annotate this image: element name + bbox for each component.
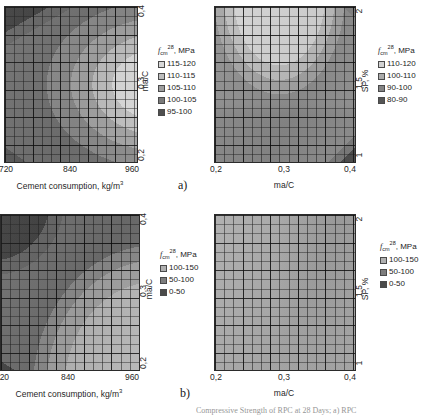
corner-band-dark-bottomleft — [5, 7, 137, 162]
legend-label: 0-50 — [169, 287, 185, 298]
x-axis-label: ma/C — [214, 388, 354, 398]
x-tick: 840 — [63, 163, 77, 175]
legend-item[interactable]: 100-150 — [380, 255, 418, 266]
legend-label: 100-110 — [387, 71, 416, 82]
legend-title: fcm28, MPa — [160, 248, 198, 260]
legend-label: 50-100 — [389, 267, 414, 278]
legend-item[interactable]: 110-115 — [158, 71, 196, 82]
legend-item[interactable]: 115-120 — [158, 59, 196, 70]
legend-label: 50-100 — [169, 275, 194, 286]
legend-item[interactable]: 0-50 — [380, 279, 418, 290]
x-tick: 0,3 — [278, 371, 290, 383]
plot-area-b-left — [0, 214, 140, 371]
chart-panel-a-left: 720 840 960 Cement consumption, kg/m3 0,… — [0, 0, 212, 208]
legend-swatch — [158, 97, 165, 104]
x-tick: 960 — [125, 371, 139, 383]
y-tick: 2 — [354, 208, 364, 230]
corner-band-dark-bottomleft — [1, 215, 139, 370]
shading-gradient-right — [215, 215, 355, 370]
legend-b-right: fcm28, MPa 100-150 50-100 0-50 — [380, 240, 418, 291]
legend-item[interactable]: 100-150 — [160, 263, 198, 274]
legend-b-left: fcm28, MPa 100-150 50-100 0-50 — [160, 248, 198, 299]
legend-label: 95-100 — [167, 107, 192, 118]
legend-swatch — [378, 73, 385, 80]
y-tick: 0,4 — [136, 0, 146, 22]
legend-swatch — [160, 289, 167, 296]
legend-item[interactable]: 50-100 — [160, 275, 198, 286]
legend-item[interactable]: 80-90 — [378, 95, 416, 106]
legend-item[interactable]: 110-120 — [378, 59, 416, 70]
legend-item[interactable]: 105-110 — [158, 83, 196, 94]
legend-item[interactable]: 50-100 — [380, 267, 418, 278]
legend-item[interactable]: 0-50 — [160, 287, 198, 298]
x-axis-ticks-b-left: 720 840 960 — [0, 371, 138, 383]
y-tick: 0,2 — [138, 352, 148, 374]
legend-label: 115-120 — [167, 59, 196, 70]
x-tick: 0,3 — [278, 163, 290, 175]
x-axis-ticks-b-right: 0,2 0,3 0,4 — [214, 371, 354, 383]
x-axis-label: ma/C — [214, 180, 354, 190]
x-tick: 0,2 — [210, 371, 222, 383]
y-tick: 1 — [354, 352, 364, 374]
legend-swatch — [158, 85, 165, 92]
y-axis-label: SP, % — [360, 68, 370, 94]
legend-swatch — [160, 277, 167, 284]
legend-swatch — [380, 257, 387, 264]
legend-a-left: fcm28, MPa 115-120 110-115 105-110 100-1… — [158, 44, 196, 119]
legend-item[interactable]: 95-100 — [158, 107, 196, 118]
y-axis-label: ma/C — [140, 68, 150, 94]
y-tick: 0,2 — [136, 144, 146, 166]
legend-a-right: fcm28, MPa 110-120 100-110 90-100 80-90 — [378, 44, 416, 107]
legend-title: fcm28, MPa — [158, 44, 196, 56]
legend-title: fcm28, MPa — [378, 44, 416, 56]
x-tick: 0,2 — [210, 163, 222, 175]
legend-item[interactable]: 100-105 — [158, 95, 196, 106]
legend-swatch — [158, 61, 165, 68]
legend-label: 90-100 — [387, 83, 412, 94]
legend-swatch — [378, 61, 385, 68]
x-axis-ticks-a-right: 0,2 0,3 0,4 — [214, 163, 354, 175]
legend-label: 0-50 — [389, 279, 405, 290]
figure-container: 720 840 960 Cement consumption, kg/m3 0,… — [0, 0, 424, 416]
y-tick: 1 — [354, 144, 364, 166]
y-tick: 0,4 — [138, 208, 148, 230]
legend-title: fcm28, MPa — [380, 240, 418, 252]
chart-panel-a-right: 0,2 0,3 0,4 ma/C 2 1,5 1 SP, % fcm28, MP… — [212, 0, 424, 208]
legend-swatch — [158, 109, 165, 116]
legend-label: 100-105 — [167, 95, 196, 106]
legend-label: 110-115 — [167, 71, 195, 82]
chart-panel-b-right: 0,2 0,3 0,4 ma/C 2 1,5 1 SP, % fcm28, MP… — [212, 208, 424, 416]
legend-label: 100-150 — [169, 263, 198, 274]
legend-swatch — [378, 97, 385, 104]
y-axis-label: SP, % — [360, 276, 370, 302]
y-tick: 2 — [354, 0, 364, 22]
x-axis-ticks-a-left: 720 840 960 — [4, 163, 136, 175]
chart-panel-b-left: 720 840 960 Cement consumption, kg/m3 0,… — [0, 208, 212, 416]
legend-swatch — [378, 85, 385, 92]
legend-swatch — [380, 281, 387, 288]
legend-label: 100-150 — [389, 255, 418, 266]
plot-area-b-right — [214, 214, 356, 371]
legend-label: 110-120 — [387, 59, 416, 70]
x-tick: 840 — [61, 371, 75, 383]
corner-band-dark-topright — [215, 7, 355, 162]
legend-item[interactable]: 100-110 — [378, 71, 416, 82]
legend-item[interactable]: 90-100 — [378, 83, 416, 94]
legend-label: 80-90 — [387, 95, 407, 106]
figure-caption: Compressive Strength of RPC at 28 Days; … — [196, 406, 356, 415]
y-axis-label: ma/C — [144, 276, 154, 302]
legend-swatch — [380, 269, 387, 276]
x-axis-label: Cement consumption, kg/m3 — [4, 180, 136, 191]
legend-swatch — [160, 265, 167, 272]
x-tick: 720 — [0, 371, 9, 383]
panel-letter-a: a) — [178, 178, 187, 193]
legend-swatch — [158, 73, 165, 80]
panel-letter-b: b) — [180, 386, 190, 401]
x-tick: 720 — [0, 163, 13, 175]
plot-area-a-left — [4, 6, 138, 163]
x-axis-label: Cement consumption, kg/m3 — [0, 388, 138, 399]
legend-label: 105-110 — [167, 83, 196, 94]
plot-area-a-right — [214, 6, 356, 163]
